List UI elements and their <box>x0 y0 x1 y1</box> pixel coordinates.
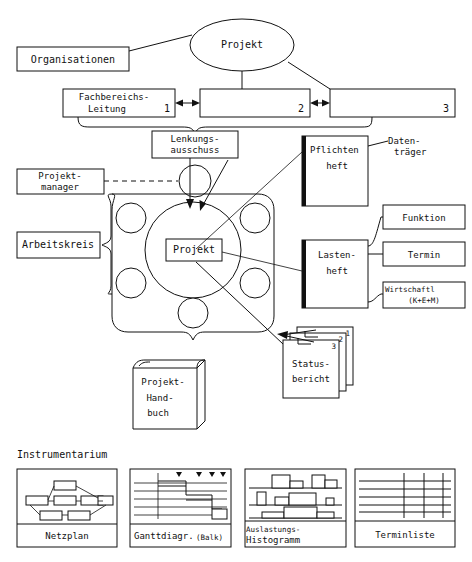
team-circle-4 <box>240 268 270 298</box>
connector-lastenheft-attributes <box>368 217 383 302</box>
netzplan-label: Netzplan <box>45 531 88 541</box>
project-management-diagram: Organisationen Projekt Fachbereichs- Lei… <box>0 0 472 562</box>
center-projekt-node: Projekt <box>166 239 222 261</box>
datentraeger-line2: träger <box>394 147 427 157</box>
center-projekt-label: Projekt <box>173 244 215 255</box>
organisation-box-3: 3 <box>330 89 455 117</box>
instrument-panel-histogram[interactable]: Auslastungs- Histogramm <box>245 469 346 547</box>
projekt-ellipse-label: Projekt <box>221 39 263 50</box>
organisation-box-2: 2 <box>200 89 310 117</box>
instrument-panel-terminliste[interactable]: Terminliste <box>355 469 455 547</box>
histogram-label-line2: Histogramm <box>246 535 300 545</box>
box2-number: 2 <box>298 103 304 114</box>
funktion-node: Funktion <box>383 205 465 229</box>
team-circle-1 <box>116 203 146 233</box>
projektmanager-line2: manager <box>41 182 80 192</box>
lastenheft-line2: heft <box>326 266 348 276</box>
connector-organisationen-projekt <box>129 35 192 51</box>
team-circle-5 <box>178 298 208 328</box>
histogram-label-line1: Auslastungs- <box>246 525 300 534</box>
gantt-label-main: Ganttdiagr. <box>134 531 194 541</box>
handbuch-line3: buch <box>147 408 169 418</box>
datentraeger-annotation: Daten- träger <box>368 136 427 157</box>
statusbericht-line2: bericht <box>292 374 330 384</box>
gantt-label-sub: (Balk) <box>196 533 223 542</box>
organisationen-label: Organisationen <box>31 54 115 65</box>
lastenheft-document: Lasten- heft <box>302 240 368 308</box>
arbeitskreis-node: Arbeitskreis <box>17 232 100 258</box>
diagram-page: Organisationen Projekt Fachbereichs- Lei… <box>0 0 472 562</box>
arbeitskreis-label: Arbeitskreis <box>22 239 94 250</box>
termin-node: Termin <box>383 242 465 266</box>
connector-projekt-lastenheft <box>222 252 302 271</box>
box3-number: 3 <box>443 103 449 114</box>
lenkungsausschuss-line1: Lenkungs- <box>171 134 220 144</box>
team-circle-2 <box>240 203 270 233</box>
brace-arbeitskreis-to-ring <box>102 194 112 294</box>
projektmanager-role-circle <box>179 165 211 197</box>
projektmanager-line1: Projekt- <box>38 171 81 181</box>
fachbereichsleitung-node: Fachbereichs- Leitung 1 <box>63 89 175 117</box>
handbuch-line2: Hand- <box>146 393 173 403</box>
lastenheft-line1: Lasten- <box>318 250 356 260</box>
instrumentarium-heading: Instrumentarium <box>17 449 107 460</box>
termin-label: Termin <box>408 250 441 260</box>
pflichtenheft-line1: Pflichten <box>310 145 359 155</box>
wirtschaftl-line2: (K+E+M) <box>408 296 440 305</box>
pflichtenheft-document: Pflichten heft <box>302 136 368 206</box>
funktion-label: Funktion <box>402 213 445 223</box>
handbuch-line1: Projekt- <box>141 377 184 387</box>
instrument-panel-gantt[interactable]: Ganttdiagr. (Balk) <box>130 469 231 547</box>
lenkungsausschuss-line2: ausschuss <box>171 145 220 155</box>
arrow-box1-box2 <box>175 100 200 107</box>
instrument-panel-netzplan[interactable]: Netzplan <box>17 469 117 547</box>
arrow-box2-box3 <box>310 100 330 107</box>
pflichtenheft-line2: heft <box>326 161 348 171</box>
organisationen-node: Organisationen <box>17 47 129 71</box>
status-page-number-3: 3 <box>331 342 336 351</box>
connector-projekt-pflichtenheft <box>196 152 302 249</box>
fachbereich-number: 1 <box>164 103 170 114</box>
lenkungsausschuss-node: Lenkungs- ausschuss <box>152 131 238 158</box>
fachbereich-label-line2: Leitung <box>88 104 126 114</box>
wirtschaftl-line1: Wirtschaftl <box>385 285 435 294</box>
fachbereich-label-line1: Fachbereichs- <box>79 92 149 102</box>
projekt-ellipse-node: Projekt <box>190 19 294 71</box>
projekthandbuch-book: Projekt- Hand- buch <box>133 360 205 429</box>
projektmanager-node: Projekt- manager <box>17 169 104 194</box>
terminliste-label: Terminliste <box>375 530 435 540</box>
team-circle-3 <box>116 268 146 298</box>
connector-projekt-box3 <box>288 62 330 89</box>
wirtschaftlichkeit-node: Wirtschaftl (K+E+M) <box>383 282 465 308</box>
datentraeger-line1: Daten- <box>388 136 421 146</box>
statusbericht-line1: Status- <box>292 359 330 369</box>
